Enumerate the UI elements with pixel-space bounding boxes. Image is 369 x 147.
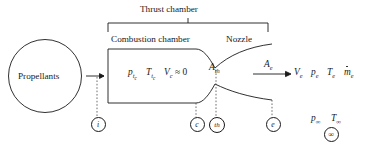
thrust-chamber-label: Thrust chamber	[140, 5, 198, 14]
Te-sub: e	[332, 72, 335, 79]
chamber-temperature-symbol: Ttc	[146, 68, 155, 78]
T-inf-sub: ∞	[336, 118, 341, 125]
combustion-chamber-label: Combustion chamber	[111, 35, 190, 44]
p-sub-c: c	[134, 75, 136, 81]
nozzle-converging-contour	[196, 49, 215, 103]
chamber-velocity-expression: Vc ≈ 0	[164, 68, 187, 77]
nozzle-diverging-contour	[215, 44, 272, 100]
mdot-glyph: m	[344, 68, 351, 77]
exit-temperature-symbol: Te	[327, 68, 335, 77]
V-relation: ≈ 0	[175, 67, 187, 77]
T-sub-c: c	[153, 75, 155, 81]
exit-area-symbol: Ae	[264, 60, 273, 69]
A-exit-sub: e	[270, 64, 273, 71]
exit-massflow-symbol: me	[344, 68, 354, 77]
throat-area-symbol: Ath	[209, 63, 220, 72]
propellants-label: Propellants	[18, 72, 59, 81]
ambient-temperature-symbol: T∞	[331, 114, 341, 123]
mdot-sub: e	[351, 72, 354, 79]
exit-pressure-symbol: pe	[311, 68, 319, 77]
station-marker-inlet: i	[91, 117, 106, 132]
inlet-flow-arrow	[86, 74, 104, 79]
Ve-sub: e	[300, 72, 303, 79]
p-inf-sub: ∞	[316, 118, 321, 125]
station-marker-throat: th	[209, 117, 225, 133]
A-throat-sub: th	[215, 67, 220, 74]
nozzle-label: Nozzle	[226, 35, 252, 44]
pe-sub: e	[316, 72, 319, 79]
chamber-pressure-symbol: ptc	[128, 68, 137, 78]
ambient-pressure-symbol: p∞	[311, 114, 320, 123]
station-marker-exit: e	[266, 117, 281, 132]
exit-flow-arrow	[253, 71, 291, 76]
thrust-chamber-bracket	[108, 18, 268, 32]
thrust-chamber-diagram: Thrust chamber Combustion chamber Nozzle…	[0, 0, 369, 147]
exit-velocity-symbol: Ve	[294, 68, 303, 77]
station-marker-ambient: ∞	[324, 127, 339, 142]
station-marker-chamber-end: c	[190, 117, 205, 132]
